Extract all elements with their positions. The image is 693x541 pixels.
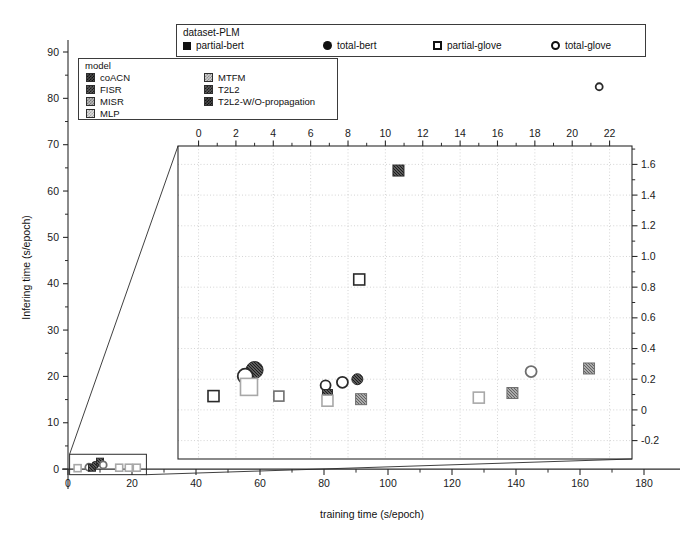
tick-label: 40 <box>190 477 202 489</box>
tick-label: 12 <box>417 127 429 139</box>
dataset-legend-title: dataset-PLM <box>183 27 240 38</box>
figure-canvas: 0102030405060708090020406080100120140160… <box>0 0 693 541</box>
model-legend-item-FISR[interactable]: FISR <box>86 84 122 95</box>
data-point <box>526 366 537 377</box>
data-point <box>74 465 81 472</box>
tick-label: 70 <box>47 138 59 150</box>
model-legend-title: model <box>85 60 111 71</box>
model-legend-label: FISR <box>100 84 122 95</box>
inset-gridlines <box>178 146 632 459</box>
data-point <box>393 165 404 176</box>
model-legend-label: MLP <box>100 108 120 119</box>
tick-label: 0 <box>53 463 59 475</box>
model-swatch-icon <box>204 97 213 106</box>
data-point <box>596 83 603 90</box>
model-legend-label: MISR <box>100 96 124 107</box>
tick-label: -0.2 <box>641 434 659 446</box>
tick-label: 120 <box>443 477 461 489</box>
tick-label: Infering time (s/epoch) <box>20 215 32 319</box>
filled-circle-icon <box>323 41 332 50</box>
model-swatch-icon <box>204 85 213 94</box>
data-point <box>337 377 348 388</box>
tick-label: 10 <box>47 416 59 428</box>
model-legend[interactable]: model coACNFISRMISRMLPMTFMT2L2T2L2-W/O-p… <box>78 58 338 120</box>
data-point <box>354 274 365 285</box>
tick-label: 18 <box>529 127 541 139</box>
data-point <box>584 363 595 374</box>
tick-label: 2 <box>233 127 239 139</box>
tick-label: 16 <box>492 127 504 139</box>
tick-label: 160 <box>571 477 589 489</box>
data-point <box>356 394 367 405</box>
data-point <box>352 374 363 385</box>
dataset-legend-label: partial-bert <box>196 40 244 51</box>
model-legend-item-T2L2[interactable]: T2L2 <box>204 84 240 95</box>
dataset-legend[interactable]: dataset-PLM partial-berttotal-bertpartia… <box>176 24 646 57</box>
tick-label: 1.4 <box>641 189 656 201</box>
outer-data-points <box>74 83 603 471</box>
tick-label: 50 <box>47 231 59 243</box>
model-swatch-icon <box>204 73 213 82</box>
inset-frame <box>178 146 632 459</box>
tick-label: 0.6 <box>641 311 656 323</box>
data-point <box>208 391 219 402</box>
filled-square-icon <box>183 42 191 50</box>
tick-label: 80 <box>47 92 59 104</box>
model-legend-item-MISR[interactable]: MISR <box>86 96 124 107</box>
data-point <box>100 461 107 468</box>
dataset-legend-item-total-glove[interactable]: total-glove <box>551 40 611 51</box>
model-swatch-icon <box>86 85 95 94</box>
tick-label: 8 <box>345 127 351 139</box>
tick-label: 0 <box>196 127 202 139</box>
tick-label: 6 <box>308 127 314 139</box>
tick-label: 4 <box>270 127 276 139</box>
model-legend-item-coACN[interactable]: coACN <box>86 72 130 83</box>
tick-label: 40 <box>47 277 59 289</box>
model-legend-item-MTFM[interactable]: MTFM <box>204 72 245 83</box>
open-square-icon <box>433 41 442 50</box>
open-circle-icon <box>551 41 560 50</box>
tick-label: 20 <box>126 477 138 489</box>
tick-label: 1.6 <box>641 158 656 170</box>
model-legend-label: T2L2-W/O-propagation <box>218 96 315 107</box>
tick-label: 1.0 <box>641 250 656 262</box>
dataset-legend-item-partial-glove[interactable]: partial-glove <box>433 40 501 51</box>
dataset-legend-label: partial-glove <box>447 40 501 51</box>
tick-label: 60 <box>254 477 266 489</box>
tick-label: 80 <box>318 477 330 489</box>
model-swatch-icon <box>86 109 95 118</box>
dataset-legend-label: total-bert <box>337 40 376 51</box>
data-point <box>507 388 518 399</box>
tick-label: 10 <box>380 127 392 139</box>
tick-label: 0.8 <box>641 281 656 293</box>
tick-label: 90 <box>47 46 59 58</box>
data-point <box>321 380 331 390</box>
tick-label: 100 <box>379 477 397 489</box>
dataset-legend-item-partial-bert[interactable]: partial-bert <box>183 40 244 51</box>
tick-label: 0 <box>641 404 647 416</box>
tick-label: 20 <box>566 127 578 139</box>
model-legend-label: MTFM <box>218 72 245 83</box>
model-swatch-icon <box>86 97 95 106</box>
dataset-legend-items: partial-berttotal-bertpartial-glovetotal… <box>183 40 641 56</box>
dataset-legend-item-total-bert[interactable]: total-bert <box>323 40 376 51</box>
data-point <box>116 464 123 471</box>
tick-label: 60 <box>47 185 59 197</box>
data-point <box>473 392 484 403</box>
tick-label: training time (s/epoch) <box>320 508 424 520</box>
data-point <box>322 395 333 406</box>
tick-label: 0 <box>65 477 71 489</box>
tick-label: 0.4 <box>641 342 656 354</box>
data-point <box>274 391 284 401</box>
data-point <box>240 378 257 395</box>
model-legend-label: coACN <box>100 72 130 83</box>
tick-label: 180 <box>635 477 653 489</box>
model-legend-item-MLP[interactable]: MLP <box>86 108 120 119</box>
model-legend-item-T2L2-W/O-propagation[interactable]: T2L2-W/O-propagation <box>204 96 315 107</box>
tick-label: 1.2 <box>641 219 656 231</box>
tick-label: 30 <box>47 324 59 336</box>
dataset-legend-label: total-glove <box>565 40 611 51</box>
tick-label: 22 <box>604 127 616 139</box>
model-legend-label: T2L2 <box>218 84 240 95</box>
data-point <box>125 464 132 471</box>
